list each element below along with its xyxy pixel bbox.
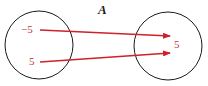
diagram-title: A [97,2,107,17]
mapping-diagram: A −5 5 5 [0,0,208,86]
codomain-set-circle [134,12,202,80]
domain-element-5: 5 [29,55,35,67]
codomain-element-5: 5 [174,38,180,50]
mapping-arrow-neg5-to-5 [40,30,170,36]
domain-set-circle [5,11,73,79]
mapping-arrow-5-to-5 [40,53,170,62]
domain-element-neg5: −5 [21,23,33,35]
